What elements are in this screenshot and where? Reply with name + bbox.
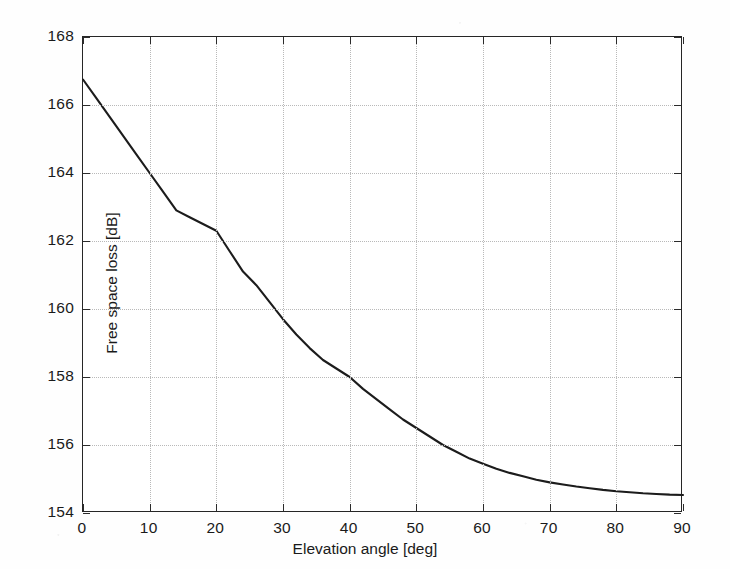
y-axis-tick-right — [674, 445, 681, 446]
y-axis-tick — [83, 37, 90, 38]
x-axis-tick-label: 10 — [140, 519, 158, 537]
gridline-vertical — [216, 37, 217, 511]
x-axis-tick — [550, 504, 551, 511]
gridline-horizontal — [83, 377, 681, 378]
y-axis-tick-label: 166 — [8, 95, 74, 113]
figure-canvas: Elevation angle [deg] Free space loss [d… — [0, 0, 730, 569]
x-axis-tick-top — [283, 37, 284, 44]
gridline-vertical — [483, 37, 484, 511]
data-curve — [83, 37, 683, 513]
x-axis-tick — [350, 504, 351, 511]
y-axis-tick-label: 160 — [8, 299, 74, 317]
y-axis-tick — [83, 377, 90, 378]
y-axis-tick-right — [674, 241, 681, 242]
x-axis-tick-label: 50 — [407, 519, 425, 537]
x-axis-tick-label: 60 — [473, 519, 491, 537]
x-axis-tick-label: 30 — [273, 519, 291, 537]
gridline-horizontal — [83, 241, 681, 242]
gridline-vertical — [616, 37, 617, 511]
gridline-vertical — [150, 37, 151, 511]
x-axis-title: Elevation angle [deg] — [0, 540, 730, 558]
y-axis-tick — [83, 513, 90, 514]
x-axis-tick — [683, 504, 684, 511]
y-axis-tick-label: 154 — [8, 503, 74, 521]
x-axis-tick — [483, 504, 484, 511]
x-axis-tick-top — [83, 37, 84, 44]
gridline-horizontal — [83, 309, 681, 310]
y-axis-tick — [83, 105, 90, 106]
y-axis-tick — [83, 445, 90, 446]
y-axis-tick-right — [674, 309, 681, 310]
y-axis-tick-label: 168 — [8, 27, 74, 45]
x-axis-tick-top — [216, 37, 217, 44]
x-axis-tick — [283, 504, 284, 511]
x-axis-tick — [616, 504, 617, 511]
gridline-vertical — [350, 37, 351, 511]
y-axis-tick — [83, 309, 90, 310]
y-axis-tick-right — [674, 513, 681, 514]
y-axis-tick-label: 156 — [8, 435, 74, 453]
x-axis-tick-top — [683, 37, 684, 44]
y-axis-tick-right — [674, 173, 681, 174]
x-axis-tick-label: 80 — [607, 519, 625, 537]
gridline-horizontal — [83, 105, 681, 106]
x-axis-tick — [416, 504, 417, 511]
y-axis-tick — [83, 173, 90, 174]
x-axis-tick-label: 20 — [207, 519, 225, 537]
x-axis-tick-top — [550, 37, 551, 44]
y-axis-tick-right — [674, 377, 681, 378]
x-axis-tick-top — [416, 37, 417, 44]
y-axis-tick — [83, 241, 90, 242]
y-axis-tick-label: 162 — [8, 231, 74, 249]
y-axis-tick-label: 164 — [8, 163, 74, 181]
gridline-horizontal — [83, 445, 681, 446]
gridline-vertical — [283, 37, 284, 511]
gridline-vertical — [416, 37, 417, 511]
x-axis-tick — [83, 504, 84, 511]
plot-area — [82, 36, 682, 512]
x-axis-tick-top — [483, 37, 484, 44]
x-axis-tick-top — [350, 37, 351, 44]
y-axis-tick-label: 158 — [8, 367, 74, 385]
y-axis-tick-right — [674, 37, 681, 38]
x-axis-tick — [216, 504, 217, 511]
gridline-vertical — [550, 37, 551, 511]
x-axis-tick-label: 90 — [673, 519, 691, 537]
x-axis-tick-label: 70 — [540, 519, 558, 537]
x-axis-tick-label: 40 — [340, 519, 358, 537]
x-axis-tick — [150, 504, 151, 511]
y-axis-tick-right — [674, 105, 681, 106]
y-axis-title: Free space loss [dB] — [103, 153, 121, 413]
gridline-horizontal — [83, 173, 681, 174]
x-axis-tick-label: 0 — [78, 519, 87, 537]
x-axis-tick-top — [150, 37, 151, 44]
x-axis-tick-top — [616, 37, 617, 44]
